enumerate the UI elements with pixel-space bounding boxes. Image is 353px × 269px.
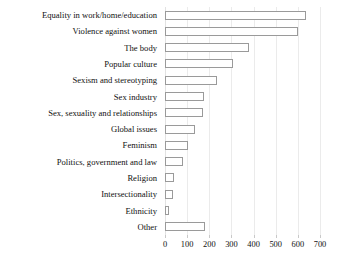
bar bbox=[165, 27, 298, 36]
bar bbox=[165, 59, 233, 68]
category-label: Ethnicity bbox=[0, 206, 157, 216]
x-tick-mark bbox=[276, 235, 277, 238]
bar-row bbox=[165, 23, 320, 39]
bar-row bbox=[165, 186, 320, 202]
bar-row bbox=[165, 202, 320, 218]
bar-row bbox=[165, 137, 320, 153]
bar bbox=[165, 92, 204, 101]
bar-row bbox=[165, 88, 320, 104]
category-label: Other bbox=[0, 222, 157, 232]
x-tick-label: 0 bbox=[163, 240, 167, 250]
category-label: Violence against women bbox=[0, 26, 157, 36]
gridline-700 bbox=[320, 7, 321, 235]
bar-row bbox=[165, 7, 320, 23]
category-label: Intersectionality bbox=[0, 189, 157, 199]
x-tick-mark bbox=[165, 235, 166, 238]
x-tick-label: 200 bbox=[203, 240, 216, 250]
x-tick-label: 700 bbox=[314, 240, 327, 250]
bar bbox=[165, 173, 174, 182]
bar-row bbox=[165, 170, 320, 186]
bar bbox=[165, 206, 169, 215]
bar-row bbox=[165, 72, 320, 88]
x-tick-label: 500 bbox=[269, 240, 282, 250]
x-tick-label: 300 bbox=[225, 240, 238, 250]
bar bbox=[165, 76, 217, 85]
x-tick-mark bbox=[209, 235, 210, 238]
bar bbox=[165, 157, 183, 166]
category-label: Religion bbox=[0, 173, 157, 183]
bar-row bbox=[165, 105, 320, 121]
plot-area bbox=[165, 7, 320, 235]
x-tick-mark bbox=[231, 235, 232, 238]
category-label: Sexism and stereotyping bbox=[0, 75, 157, 85]
bar bbox=[165, 11, 306, 20]
x-tick-mark bbox=[320, 235, 321, 238]
bar bbox=[165, 190, 173, 199]
bar bbox=[165, 222, 205, 231]
bar bbox=[165, 108, 203, 117]
bar bbox=[165, 125, 195, 134]
x-tick-mark bbox=[187, 235, 188, 238]
category-label: Sex industry bbox=[0, 92, 157, 102]
x-tick-mark bbox=[254, 235, 255, 238]
bar-row bbox=[165, 40, 320, 56]
x-axis: 0100200300400500600700 bbox=[165, 235, 320, 261]
bar-row bbox=[165, 56, 320, 72]
bar-chart: Equality in work/home/educationViolence … bbox=[0, 0, 353, 269]
bar-series bbox=[165, 7, 320, 235]
x-tick-label: 100 bbox=[181, 240, 194, 250]
bar bbox=[165, 43, 249, 52]
category-label: The body bbox=[0, 43, 157, 53]
category-label: Equality in work/home/education bbox=[0, 10, 157, 20]
category-label: Global issues bbox=[0, 124, 157, 134]
category-label: Feminism bbox=[0, 140, 157, 150]
x-tick-label: 600 bbox=[292, 240, 305, 250]
category-axis: Equality in work/home/educationViolence … bbox=[0, 7, 161, 235]
bar-row bbox=[165, 154, 320, 170]
category-label: Popular culture bbox=[0, 59, 157, 69]
bar-row bbox=[165, 219, 320, 235]
bar bbox=[165, 141, 188, 150]
x-tick-mark bbox=[298, 235, 299, 238]
category-label: Sex, sexuality and relationships bbox=[0, 108, 157, 118]
x-tick-label: 400 bbox=[247, 240, 260, 250]
bar-row bbox=[165, 121, 320, 137]
category-label: Politics, government and law bbox=[0, 157, 157, 167]
